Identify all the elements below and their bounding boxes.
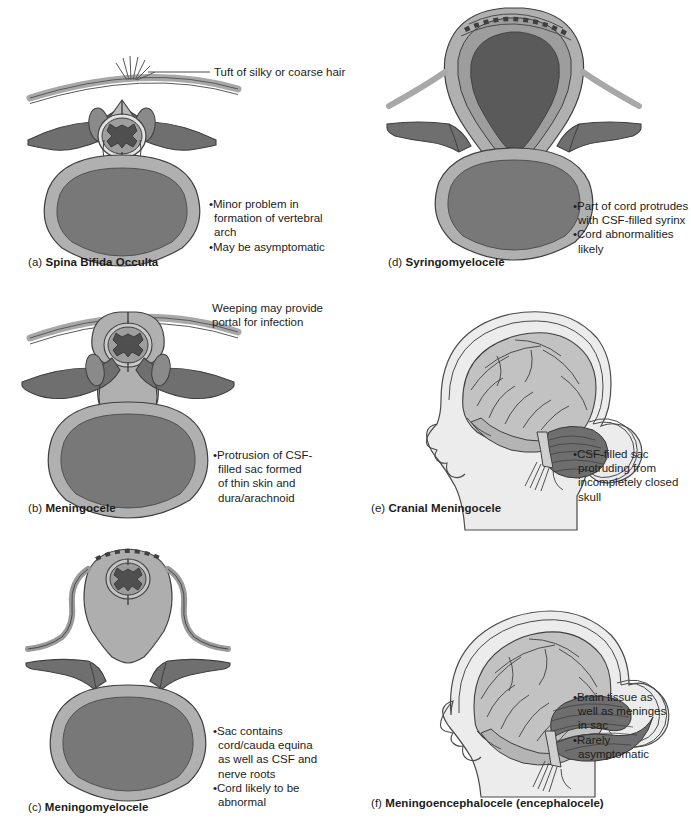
callout-line: Weeping may provide (212, 301, 323, 315)
bullet-line: nerve roots (213, 767, 343, 781)
bullet-line: arch (209, 225, 339, 239)
panel-a-spina-bifida-occulta: Tuft of silky or coarse hair •Minor prob… (0, 0, 345, 290)
panel-e-cranial-meningocele: •CSF-filled sac protruding from incomple… (345, 290, 691, 545)
bullet-line: •Sac contains (213, 724, 343, 738)
panel-d-caption: (d) Syringomyelocele (388, 256, 505, 268)
caption-index: (e) (371, 502, 385, 514)
bullet-line: •Protrusion of CSF- (213, 448, 343, 462)
panel-f-bullets: •Brain tissue as well as meninges in sac… (573, 690, 691, 761)
figure-root: Tuft of silky or coarse hair •Minor prob… (0, 0, 691, 823)
caption-title: Meningomyelocele (45, 801, 149, 813)
bullet-line: likely (573, 242, 691, 256)
panel-d-syringomyelocele: •Part of cord protrudes with CSF-filled … (345, 0, 691, 290)
vertebral-body-core (57, 168, 187, 256)
panel-c-caption: (c) Meningomyelocele (28, 801, 149, 813)
caption-index: (a) (28, 256, 42, 268)
panel-b-callout: Weeping may provide portal for infection (212, 301, 323, 329)
panel-e-bullets-list: •CSF-filled sac protruding from incomple… (573, 447, 691, 504)
bullet-line: formation of vertebral (209, 211, 339, 225)
bullet-line: skull (573, 490, 691, 504)
panel-f-caption: (f) Meningoencephalocele (encephalocele) (371, 797, 604, 809)
caption-title: Syringomyelocele (405, 256, 504, 268)
bullet-line: •Cord abnormalities (573, 227, 691, 241)
caption-title: Cranial Meningocele (388, 502, 501, 514)
caption-title: Meningoencephalocele (encephalocele) (385, 797, 603, 809)
panel-c-meningomyelocele: •Sac contains cord/cauda equina as well … (0, 545, 345, 823)
caption-title: Meningocele (45, 502, 115, 514)
vertebral-body-core (63, 697, 193, 791)
bullet-line: well as meninges (573, 704, 691, 718)
panel-a-callout: Tuft of silky or coarse hair (214, 65, 345, 79)
bullet-line: •Minor problem in (209, 197, 339, 211)
callout-line: portal for infection (212, 315, 323, 329)
callout-line: Tuft of silky or coarse hair (214, 65, 345, 79)
spinal-cord-grey-matter (114, 568, 142, 591)
panel-a-bullets: •Minor problem in formation of vertebral… (209, 197, 339, 254)
vertebral-body-core (448, 160, 580, 250)
bullet-line: •Rarely (573, 733, 691, 747)
bullet-line: abnormal (213, 795, 343, 809)
bullet-line: incompletely closed (573, 475, 691, 489)
caption-index: (f) (371, 797, 382, 809)
bullet-line: in sac (573, 718, 691, 732)
bullet-line: dura/arachnoid (213, 491, 343, 505)
bullet-line: protruding from (573, 461, 691, 475)
bullet-line: •Cord likely to be (213, 781, 343, 795)
caption-index: (d) (388, 256, 402, 268)
panel-f-meningoencephalocele: •Brain tissue as well as meninges in sac… (345, 545, 691, 823)
skin-flap-right (168, 569, 228, 649)
caption-index: (b) (28, 502, 42, 514)
panel-d-bullets: •Part of cord protrudes with CSF-filled … (573, 199, 691, 256)
skin-flap-left (28, 569, 88, 649)
vertebral-body-core (61, 414, 195, 508)
bullet-line: of thin skin and (213, 476, 343, 490)
caption-index: (c) (28, 801, 42, 813)
spinal-cord-grey-matter (107, 124, 137, 148)
panel-b-bullets: •Protrusion of CSF- filled sac formed of… (213, 448, 343, 505)
bullet-line: •May be asymptomatic (209, 240, 339, 254)
bullet-line: as well as CSF and (213, 752, 343, 766)
bullet-line: •Part of cord protrudes (573, 199, 691, 213)
caption-title: Spina Bifida Occulta (45, 256, 158, 268)
panel-b-caption: (b) Meningocele (28, 502, 116, 514)
bullet-line: •CSF-filled sac (573, 447, 691, 461)
bullet-line: with CSF-filled syrinx (573, 213, 691, 227)
bullet-line: filled sac formed (213, 462, 343, 476)
panel-a-caption: (a) Spina Bifida Occulta (28, 256, 158, 268)
panel-c-bullets: •Sac contains cord/cauda equina as well … (213, 724, 343, 809)
bullet-line: asymptomatic (573, 747, 691, 761)
bullet-line: cord/cauda equina (213, 738, 343, 752)
panel-e-caption: (e) Cranial Meningocele (371, 502, 501, 514)
spinal-cord-grey-matter (113, 333, 143, 357)
panel-b-meningocele: Weeping may provide portal for infection… (0, 290, 345, 545)
panel-f-illustration (345, 545, 691, 823)
bullet-line: •Brain tissue as (573, 690, 691, 704)
